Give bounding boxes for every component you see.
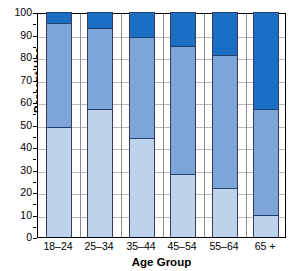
- y-tick-label: 0: [2, 232, 32, 243]
- y-tick-label: 70: [2, 75, 32, 86]
- y-tick-label: 10: [2, 210, 32, 221]
- x-axis-tick-labels: 18–2425–3435–4445–5455–6465 +: [37, 240, 286, 256]
- bar-segment-dark-blue-segment: [253, 12, 279, 109]
- y-tick-label: 60: [2, 97, 32, 108]
- y-tick-mark-minor: [33, 114, 36, 115]
- y-tick-label: 80: [2, 52, 32, 63]
- x-tick-label: 65 +: [239, 240, 290, 252]
- bar-segment-medium-blue-segment: [170, 46, 196, 174]
- y-tick-mark-minor: [33, 92, 36, 93]
- bar-3: [129, 12, 155, 237]
- y-axis-tick-labels: 0102030405060708090100: [0, 0, 32, 271]
- y-tick-mark: [33, 238, 37, 239]
- y-tick-label: 50: [2, 120, 32, 131]
- bar-segment-light-blue-segment: [212, 188, 238, 238]
- y-tick-label: 30: [2, 165, 32, 176]
- bar-segment-light-blue-segment: [129, 138, 155, 237]
- bar-segment-dark-blue-segment: [87, 12, 113, 28]
- bar-1: [46, 12, 72, 237]
- bar-segment-dark-blue-segment: [129, 12, 155, 37]
- y-tick-mark-minor: [33, 69, 36, 70]
- y-tick-mark-minor: [33, 47, 36, 48]
- y-tick-mark-minor: [33, 24, 36, 25]
- y-tick-label: 40: [2, 142, 32, 153]
- bar-segment-medium-blue-segment: [87, 28, 113, 109]
- x-axis-title: Age Group: [37, 256, 286, 268]
- y-tick-mark-minor: [33, 137, 36, 138]
- plot-area: [37, 13, 286, 238]
- bar-segment-light-blue-segment: [170, 174, 196, 237]
- y-tick-mark-minor: [33, 204, 36, 205]
- bar-segment-dark-blue-segment: [46, 12, 72, 23]
- bar-segment-dark-blue-segment: [170, 12, 196, 46]
- y-tick-label: 90: [2, 30, 32, 41]
- y-tick-mark-minor: [33, 182, 36, 183]
- bar-series-layer: [38, 14, 285, 237]
- bar-segment-light-blue-segment: [46, 127, 72, 237]
- bar-segment-medium-blue-segment: [129, 37, 155, 138]
- bar-segment-medium-blue-segment: [212, 55, 238, 188]
- y-tick-label: 20: [2, 187, 32, 198]
- bar-4: [170, 12, 196, 237]
- bar-6: [253, 12, 279, 237]
- bar-segment-light-blue-segment: [87, 109, 113, 237]
- y-tick-label: 100: [2, 7, 32, 18]
- bar-segment-medium-blue-segment: [253, 109, 279, 215]
- bar-segment-dark-blue-segment: [212, 12, 238, 55]
- bar-segment-medium-blue-segment: [46, 23, 72, 127]
- bar-5: [212, 12, 238, 237]
- bar-segment-light-blue-segment: [253, 215, 279, 238]
- y-tick-mark-minor: [33, 159, 36, 160]
- y-tick-mark-minor: [33, 227, 36, 228]
- stacked-bar-chart: Percent Use 0102030405060708090100 18–24…: [0, 0, 290, 271]
- bar-2: [87, 12, 113, 237]
